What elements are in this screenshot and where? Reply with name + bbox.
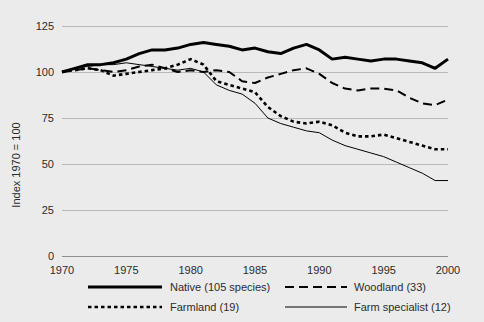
series-line-3 (62, 63, 448, 181)
x-tick-label: 1985 (243, 264, 267, 276)
series-line-1 (62, 65, 448, 105)
y-axis-tick-labels: 1251007550250 (36, 20, 54, 262)
series-line-0 (62, 43, 448, 72)
chart-container: 1251007550250 19701975198019851990199520… (0, 0, 484, 322)
y-tick-label: 25 (42, 204, 54, 216)
legend-label-3: Farm specialist (12) (354, 301, 451, 313)
data-series-group (62, 43, 448, 181)
x-axis-tick-labels: 1970197519801985199019952000 (50, 264, 460, 276)
y-tick-label: 100 (36, 66, 54, 78)
legend-label-2: Farmland (19) (170, 301, 239, 313)
x-tick-label: 1970 (50, 264, 74, 276)
x-tick-label: 1995 (371, 264, 395, 276)
y-tick-label: 125 (36, 20, 54, 32)
legend-label-0: Native (105 species) (170, 281, 270, 293)
chart-legend: Native (105 species)Woodland (33)Farmlan… (88, 281, 451, 313)
x-tick-label: 1990 (307, 264, 331, 276)
y-tick-label: 50 (42, 158, 54, 170)
x-tick-label: 1980 (178, 264, 202, 276)
legend-label-1: Woodland (33) (354, 281, 426, 293)
x-tick-label: 1975 (114, 264, 138, 276)
y-tick-label: 0 (48, 250, 54, 262)
y-axis-title: Index 1970 = 100 (10, 122, 22, 207)
y-tick-label: 75 (42, 112, 54, 124)
x-tick-label: 2000 (436, 264, 460, 276)
line-chart: 1251007550250 19701975198019851990199520… (0, 0, 484, 322)
